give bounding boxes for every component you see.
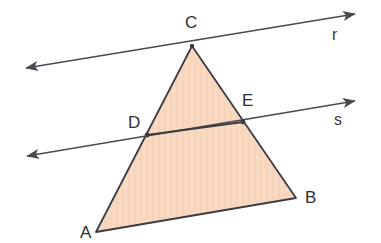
vertex-label-c: C [185, 14, 197, 31]
geometry-canvas [0, 0, 381, 243]
point-d-marker [145, 133, 150, 138]
point-c-marker [190, 44, 194, 48]
geometry-figure: A B C D E r s [0, 0, 381, 243]
point-label-e: E [242, 92, 253, 109]
vertex-label-a: A [80, 224, 91, 241]
vertex-label-b: B [305, 189, 316, 206]
line-label-r: r [332, 27, 337, 43]
point-e-marker [241, 120, 246, 125]
line-label-s: s [334, 112, 342, 128]
point-label-d: D [128, 114, 140, 131]
